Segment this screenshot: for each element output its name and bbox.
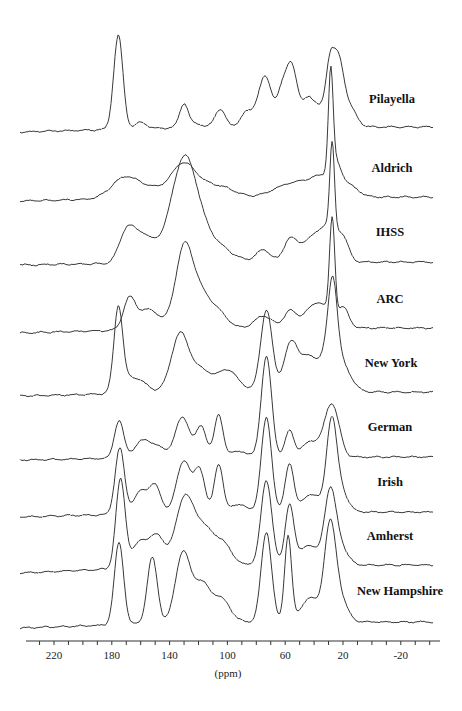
label-aldrich: Aldrich bbox=[372, 161, 413, 175]
tick-label-100: 100 bbox=[219, 649, 236, 661]
label-new-hampshire: New Hampshire bbox=[357, 584, 444, 598]
tick-label-20: 20 bbox=[338, 649, 350, 661]
label-new-york: New York bbox=[365, 356, 418, 370]
label-pilayella: Pilayella bbox=[369, 92, 416, 106]
nmr-stacked-spectra-chart: Pilayella Aldrich IHSS ARC New York Germ… bbox=[0, 0, 462, 711]
spectrum-new-york bbox=[20, 276, 433, 397]
x-axis: 220 180 140 100 60 20 -20 (ppm) bbox=[26, 641, 440, 680]
spectrum-aldrich bbox=[20, 66, 433, 202]
tick-label-220: 220 bbox=[46, 649, 63, 661]
x-axis-title: (ppm) bbox=[215, 667, 242, 680]
x-axis-tick-labels: 220 180 140 100 60 20 -20 bbox=[46, 649, 409, 661]
tick-label-60: 60 bbox=[280, 649, 292, 661]
tick-label-minus20: -20 bbox=[393, 649, 408, 661]
spectrum-arc bbox=[20, 217, 433, 334]
spectrum-german bbox=[20, 357, 433, 461]
spectrum-amherst bbox=[20, 478, 433, 573]
tick-label-180: 180 bbox=[104, 649, 121, 661]
label-ihss: IHSS bbox=[376, 225, 405, 239]
spectrum-pilayella bbox=[20, 35, 433, 133]
label-amherst: Amherst bbox=[367, 529, 414, 543]
label-arc: ARC bbox=[376, 292, 403, 306]
label-irish: Irish bbox=[377, 475, 403, 489]
series-labels: Pilayella Aldrich IHSS ARC New York Germ… bbox=[357, 92, 444, 598]
x-axis-ticks bbox=[40, 641, 430, 645]
tick-label-140: 140 bbox=[161, 649, 178, 661]
label-german: German bbox=[368, 420, 412, 434]
